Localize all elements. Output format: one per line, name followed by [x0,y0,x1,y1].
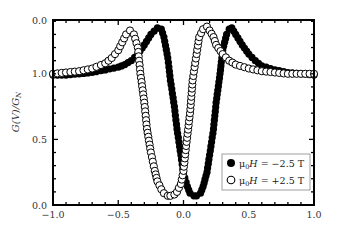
y-axis-title-sub: N [15,91,23,99]
y-axis-title: G(V)/GN [10,91,23,132]
conductance-chart: −1.0−0.50.00.51.00.00.51.00.0 G(V)/GN μ0… [0,0,338,231]
y-tick-label: 0.0 [32,15,47,26]
x-tick-label: −0.5 [107,209,130,220]
y-tick-label: 0.5 [32,134,47,145]
y-tick-label: 0.0 [32,200,47,211]
legend-open-marker-icon [227,176,235,184]
x-tick-label: 0.5 [241,209,256,220]
y-tick-label: 1.0 [32,68,47,79]
x-tick-label: 1.0 [306,209,321,220]
y-axis-title-main: G(V)/G [10,98,21,132]
x-tick-label: 0.0 [176,209,191,220]
legend: μ0H = −2.5 T μ0H = +2.5 T [222,154,310,190]
x-tick-label: −1.0 [41,209,64,220]
legend-filled-marker-icon [227,159,235,167]
